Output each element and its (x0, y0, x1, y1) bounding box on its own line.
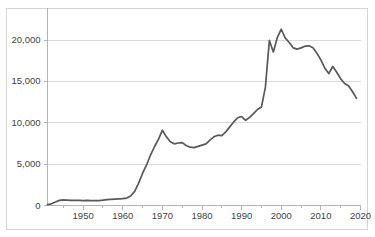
axes (48, 8, 361, 206)
y-axis-labels: 05,00010,00015,00020,000 (11, 34, 40, 211)
y-axis-label: 10,000 (11, 117, 40, 128)
y-axis-label: 0 (35, 200, 40, 211)
x-axis-label: 1980 (191, 210, 212, 221)
y-axis-label: 20,000 (11, 34, 40, 45)
x-axis-label: 1970 (152, 210, 173, 221)
x-axis-label: 1990 (231, 210, 252, 221)
line-chart: 05,00010,00015,00020,000 195019601970198… (0, 0, 375, 237)
x-axis-label: 1950 (73, 210, 94, 221)
y-axis-label: 15,000 (11, 75, 40, 86)
gridlines (48, 40, 361, 164)
y-axis-label: 5,000 (17, 158, 41, 169)
x-axis-labels: 19501960197019801990200020102020 (73, 210, 371, 221)
x-axis-label: 2010 (310, 210, 331, 221)
data-series (48, 29, 357, 204)
series-line-1 (48, 29, 357, 204)
x-axis-label: 2000 (271, 210, 292, 221)
tick-marks (44, 40, 361, 210)
x-axis-label: 2020 (350, 210, 371, 221)
x-axis-label: 1960 (112, 210, 133, 221)
